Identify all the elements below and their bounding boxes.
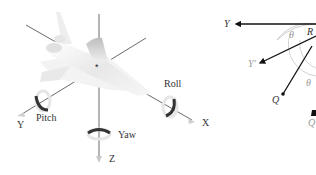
z-axis-arrow	[96, 156, 102, 163]
pitch-label: Pitch	[36, 113, 57, 123]
center-marker: *	[95, 62, 99, 72]
y-prime-vector	[260, 36, 316, 63]
q-prime-point	[311, 110, 316, 116]
theta-top-label: θ	[289, 30, 294, 40]
y-axis-label: Y	[17, 120, 24, 130]
q-label: Q	[272, 95, 279, 105]
yaw-label: Yaw	[118, 130, 136, 140]
theta-bottom-label: θ	[306, 78, 311, 88]
x-axis-arrow	[188, 118, 195, 124]
aircraft-graphic	[40, 12, 150, 96]
y-prime-vector-label: Y'	[248, 59, 256, 69]
y-vector-label: Y	[224, 19, 230, 29]
aircraft-axes-diagram: *	[0, 0, 316, 175]
x-axis-label: X	[202, 118, 209, 128]
z-axis-label: Z	[109, 154, 115, 164]
q-point	[281, 92, 285, 96]
y-axis-arrow	[17, 112, 25, 117]
r-label: R	[307, 27, 313, 37]
roll-label: Roll	[164, 79, 181, 89]
diagram-canvas: *	[0, 0, 316, 175]
q-prime-label: Q	[308, 118, 315, 128]
